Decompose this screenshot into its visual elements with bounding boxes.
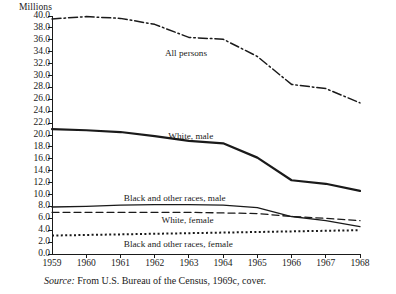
series-line — [52, 17, 360, 103]
series-label: White, female — [162, 215, 214, 225]
y-tick-label: 12.0 — [18, 178, 50, 188]
y-tick-label: 36.0 — [18, 35, 50, 45]
y-tick-label: 20.0 — [18, 130, 50, 140]
series-label: Black and other races, male — [124, 193, 226, 203]
series-label: All persons — [165, 48, 207, 58]
y-tick-label: 22.0 — [18, 118, 50, 128]
chart-figure: Millions 0.02.04.06.08.010.012.014.016.0… — [0, 0, 396, 294]
y-tick-label: 10.0 — [18, 190, 50, 200]
y-tick-label: 38.0 — [18, 23, 50, 33]
y-tick-label: 4.0 — [18, 225, 50, 235]
source-text: From U.S. Bureau of the Census, 1969c, c… — [77, 275, 266, 286]
y-tick-label: 28.0 — [18, 82, 50, 92]
y-tick-label: 18.0 — [18, 142, 50, 152]
series-line — [52, 230, 360, 235]
y-tick-label: 26.0 — [18, 94, 50, 104]
y-tick-label: 14.0 — [18, 166, 50, 176]
y-tick-label: 30.0 — [18, 71, 50, 81]
source-prefix: Source: — [44, 275, 75, 286]
y-tick-label: 8.0 — [18, 201, 50, 211]
series-label: Black and other races, female — [124, 239, 233, 249]
y-tick-label: 16.0 — [18, 154, 50, 164]
x-tick-label: 1968 — [340, 258, 380, 268]
y-tick-label: 6.0 — [18, 213, 50, 223]
y-tick-label: 34.0 — [18, 47, 50, 57]
y-tick-label: 32.0 — [18, 59, 50, 69]
series-label: White, male — [168, 131, 213, 141]
source-note: Source: From U.S. Bureau of the Census, … — [44, 275, 266, 287]
y-tick-label: 40.0 — [18, 11, 50, 21]
y-tick-label: 2.0 — [18, 237, 50, 247]
y-tick-label: 24.0 — [18, 106, 50, 116]
